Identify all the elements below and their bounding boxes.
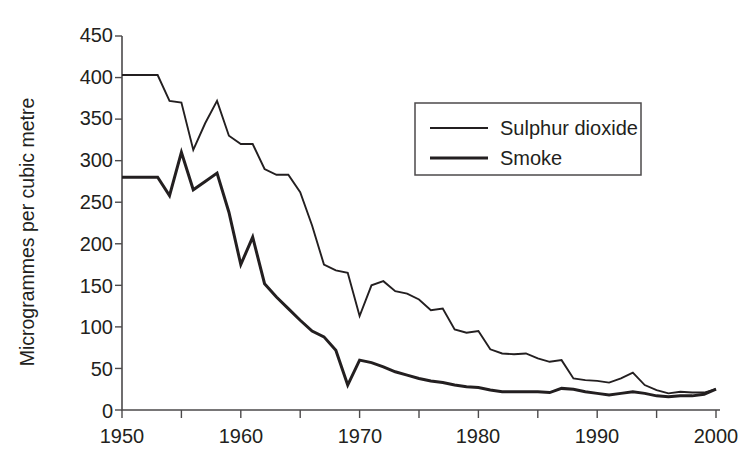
chart-legend: Sulphur dioxide Smoke	[415, 103, 641, 175]
y-tick-label: 450	[80, 24, 113, 46]
pollution-line-chart: Microgrammes per cubic metre 450 400 350…	[0, 0, 745, 464]
x-tick-label: 2000	[694, 425, 739, 447]
y-tick-label: 300	[80, 149, 113, 171]
x-tick-label: 1950	[100, 425, 145, 447]
y-tick-label: 350	[80, 107, 113, 129]
chart-canvas: Microgrammes per cubic metre 450 400 350…	[0, 0, 745, 464]
y-tick-label: 150	[80, 275, 113, 297]
chart-axes	[115, 36, 720, 418]
x-tick-label: 1970	[338, 425, 383, 447]
x-axis-tick-labels: 1950 1960 1970 1980 1990 2000	[100, 425, 739, 447]
y-axis-tick-labels: 450 400 350 300 250 200 150 100 50 0	[80, 24, 113, 422]
x-tick-label: 1960	[219, 425, 264, 447]
series-line-smoke	[122, 152, 716, 396]
y-tick-label: 400	[80, 66, 113, 88]
y-tick-label: 200	[80, 233, 113, 255]
y-tick-label: 0	[102, 400, 113, 422]
legend-label-sulphur-dioxide: Sulphur dioxide	[500, 117, 638, 139]
x-tick-label: 1990	[575, 425, 620, 447]
legend-label-smoke: Smoke	[500, 147, 562, 169]
axis-lines	[122, 36, 720, 410]
y-tick-label: 50	[91, 358, 113, 380]
x-tick-label: 1980	[456, 425, 501, 447]
y-tick-label: 100	[80, 316, 113, 338]
y-axis-title: Microgrammes per cubic metre	[16, 98, 38, 367]
y-tick-label: 250	[80, 191, 113, 213]
